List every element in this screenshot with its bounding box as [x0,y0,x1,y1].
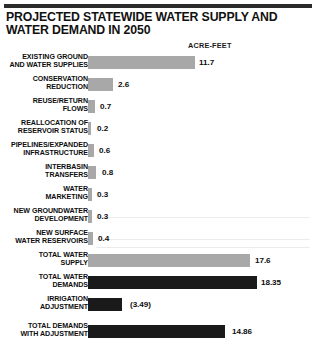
bar-value-label: 2.6 [118,80,129,89]
bar [88,276,257,289]
bar [88,232,93,245]
category-label: TOTAL WATER DEMANDS [4,273,88,289]
bar-value-label: 0.3 [97,190,108,199]
chart-title: PROJECTED STATEWIDE WATER SUPPLY AND WAT… [6,11,306,38]
bar [88,325,225,338]
category-label: PIPELINES/EXPANDED INFRASTRUCTURE [4,141,88,157]
category-label: REUSE/RETURN FLOWS [4,97,88,113]
bar-value-label: 0.2 [97,124,108,133]
bar [88,78,113,91]
category-label: REALLOCATION OF RESERVOIR STATUS [4,119,88,135]
header-rule [4,4,312,8]
category-label: EXISTING GROUND AND WATER SUPPLIES [4,53,88,69]
bar-value-label: (3.49) [130,300,151,309]
bar-value-label: 0.4 [98,234,109,243]
scan-artifact-line [96,247,310,248]
bar-value-label: 11.7 [199,58,214,67]
bar [88,56,195,69]
bar-value-label: 0.3 [97,212,108,221]
plot-area: EXISTING GROUND AND WATER SUPPLIES11.7CO… [0,51,316,353]
bar [88,254,250,267]
bar [88,122,91,135]
bar [88,100,95,113]
bar [88,144,94,157]
bar-value-label: 14.86 [232,327,252,336]
bar-value-label: 18.35 [261,278,281,287]
units-label: ACRE-FEET [188,41,232,50]
bar [88,210,92,223]
bar-value-label: 17.6 [255,256,271,265]
category-label: NEW GROUNDWATER DEVELOPMENT [4,207,88,223]
bar [88,298,122,311]
category-label: IRRIGATION ADJUSTMENT [4,295,88,311]
scan-artifact-line [96,239,310,240]
bar [88,188,92,201]
category-label: INTERBASIN TRANSFERS [4,163,88,179]
bar-value-label: 0.6 [99,146,110,155]
bar-value-label: 0.8 [102,168,113,177]
chart-figure: PROJECTED STATEWIDE WATER SUPPLY AND WAT… [0,0,316,353]
scan-artifact-line [96,217,310,218]
category-label: CONSERVATION REDUCTION [4,75,88,91]
bar [88,166,96,179]
category-label: TOTAL WATER SUPPLY [4,251,88,267]
category-label: TOTAL DEMANDS WITH ADJUSTMENT [4,322,88,338]
category-label: NEW SURFACE WATER RESERVOIRS [4,229,88,245]
bar-value-label: 0.7 [100,102,111,111]
category-label: WATER MARKETING [4,185,88,201]
